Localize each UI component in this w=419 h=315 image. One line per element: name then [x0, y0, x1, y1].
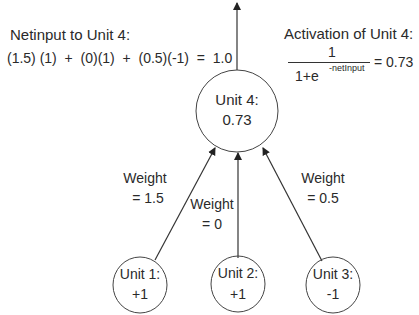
weight3-value: = 0.5: [292, 190, 354, 206]
weight1-value: = 1.5: [118, 190, 178, 206]
activation-numerator: 1: [328, 44, 336, 60]
unit4-value: 0.73: [197, 112, 277, 128]
weight2-label: Weight: [187, 196, 237, 212]
activation-exponent: -netInput: [329, 63, 365, 73]
weight3-label: Weight: [292, 170, 354, 186]
netinput-equation: (1.5) (1) + (0)(1) + (0.5)(-1) = 1.0: [7, 50, 232, 66]
unit4-name: Unit 4:: [197, 92, 277, 108]
unit1-name: Unit 1:: [110, 266, 170, 282]
unit2-name: Unit 2:: [208, 265, 268, 281]
netinput-title: Netinput to Unit 4:: [10, 27, 130, 43]
weight2-value: = 0: [187, 216, 237, 232]
unit3-value: -1: [303, 286, 363, 302]
weight1-label: Weight: [115, 170, 175, 186]
unit2-value: +1: [208, 286, 268, 302]
unit3-name: Unit 3:: [303, 266, 363, 282]
unit1-value: +1: [110, 286, 170, 302]
activation-title: Activation of Unit 4:: [284, 26, 413, 42]
activation-formula: 1 1+e -netInput = 0.73: [288, 44, 418, 84]
activation-denominator-base: 1+e: [295, 68, 319, 84]
activation-result: = 0.73: [374, 54, 413, 70]
